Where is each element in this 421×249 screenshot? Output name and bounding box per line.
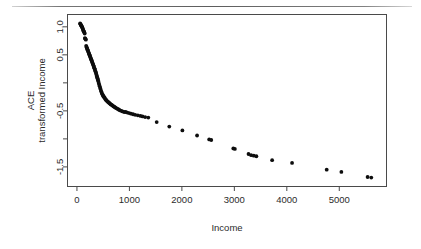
data-point xyxy=(270,158,274,162)
data-point xyxy=(181,129,185,133)
data-point xyxy=(83,32,87,36)
data-point xyxy=(254,154,258,158)
x-tick-label: 2000 xyxy=(171,194,192,205)
x-axis-title: Income xyxy=(211,222,242,233)
data-point-group xyxy=(78,22,373,180)
data-point xyxy=(366,175,370,179)
y-tick-label: 0.5 xyxy=(54,48,65,61)
y-tick-label: 1.0 xyxy=(54,20,65,33)
plot-frame xyxy=(68,15,387,187)
x-tick-label: 1000 xyxy=(119,194,140,205)
y-axis-title-line1: ACE xyxy=(25,91,36,111)
data-point xyxy=(233,147,237,151)
scatter-plot-figure: 0100020003000400050001.00.5-0.5-1.5Incom… xyxy=(0,0,421,249)
y-axis-title-line2: transformed Income xyxy=(36,58,47,142)
x-tick-label: 4000 xyxy=(276,194,297,205)
data-point xyxy=(290,161,294,165)
data-point xyxy=(155,120,159,124)
data-point xyxy=(167,125,171,129)
data-point xyxy=(369,176,373,180)
plot-canvas: 0100020003000400050001.00.5-0.5-1.5Incom… xyxy=(0,0,421,249)
x-tick-label: 5000 xyxy=(329,194,350,205)
data-point xyxy=(195,134,199,138)
x-tick-label: 3000 xyxy=(224,194,245,205)
data-point xyxy=(209,138,213,142)
y-tick-label: -1.5 xyxy=(54,159,65,175)
y-tick-label: -0.5 xyxy=(54,103,65,119)
x-tick-label: 0 xyxy=(74,194,79,205)
data-point xyxy=(339,170,343,174)
data-point xyxy=(143,115,147,119)
data-point xyxy=(146,116,150,120)
data-point xyxy=(325,168,329,172)
data-point xyxy=(84,38,88,42)
